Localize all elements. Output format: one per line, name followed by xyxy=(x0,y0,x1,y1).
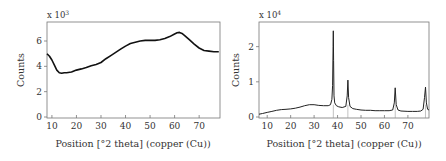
figure: 0246 10203040506070 x 103 Counts Positio… xyxy=(0,0,446,161)
x-tick-label: 20 xyxy=(285,121,297,131)
right-plot-frame xyxy=(259,22,429,118)
x-tick-label: 30 xyxy=(95,121,107,131)
x-tick-label: 70 xyxy=(402,121,414,131)
right-y-axis-title: Counts xyxy=(230,53,241,87)
left-chart: 0246 10203040506070 x 103 Counts Positio… xyxy=(15,9,220,149)
y-tick-label: 6 xyxy=(36,36,42,46)
x-tick-label: 10 xyxy=(46,121,58,131)
right-data-line xyxy=(259,31,429,114)
y-tick-label: 2 xyxy=(248,42,254,52)
left-plot-frame xyxy=(47,22,220,118)
x-tick-label: 10 xyxy=(261,121,273,131)
x-tick-label: 50 xyxy=(355,121,367,131)
y-tick-label: 1 xyxy=(248,77,254,87)
left-y-axis-title: Counts xyxy=(15,53,26,87)
right-x-ticks: 10203040506070 xyxy=(261,115,413,131)
x-tick-label: 30 xyxy=(308,121,320,131)
x-tick-label: 20 xyxy=(71,121,83,131)
y-tick-label: 2 xyxy=(36,87,42,97)
right-chart: 012 10203040506070 x 104 Counts Position… xyxy=(230,9,429,149)
left-y-ticks: 0246 xyxy=(36,36,47,122)
y-tick-label: 0 xyxy=(248,112,254,122)
y-tick-label: 0 xyxy=(36,112,42,122)
right-y-multiplier: x 104 xyxy=(259,9,281,20)
left-data-line xyxy=(47,32,219,73)
left-x-ticks: 10203040506070 xyxy=(46,115,205,131)
x-tick-label: 40 xyxy=(332,121,344,131)
x-tick-label: 60 xyxy=(169,121,181,131)
x-tick-label: 60 xyxy=(379,121,391,131)
left-y-multiplier: x 103 xyxy=(47,9,69,20)
x-tick-label: 50 xyxy=(144,121,156,131)
y-tick-label: 4 xyxy=(36,61,42,71)
right-x-axis-title: Position [°2 theta] (copper (Cu)) xyxy=(266,138,421,149)
right-y-ticks: 012 xyxy=(248,42,259,122)
x-tick-label: 70 xyxy=(193,121,205,131)
x-tick-label: 40 xyxy=(120,121,132,131)
left-x-axis-title: Position [°2 theta] (copper (Cu)) xyxy=(55,138,210,149)
